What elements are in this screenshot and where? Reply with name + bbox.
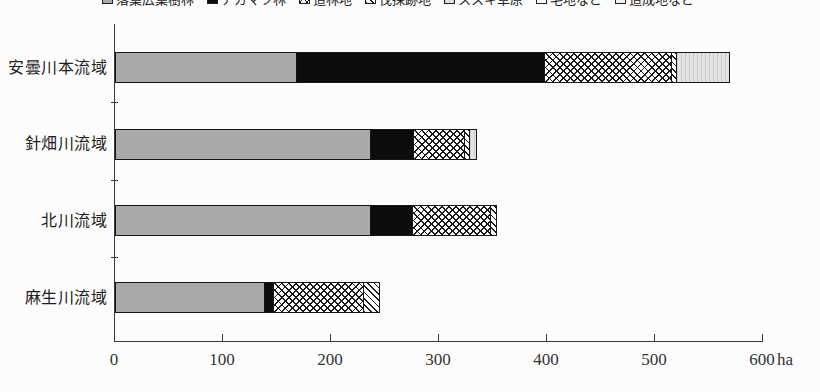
- bar-segment-gray: [116, 130, 371, 159]
- x-axis-line: [114, 341, 763, 342]
- plot-area: [115, 0, 763, 341]
- bar-segment-diagonal: [364, 283, 379, 312]
- x-tick-label-300: 300: [414, 350, 462, 370]
- bar-麻生川流域: [115, 282, 380, 313]
- category-label-3: 麻生川流域: [0, 287, 107, 309]
- category-label-2: 北川流域: [0, 210, 107, 232]
- chart-canvas: 落葉広葉樹林アカマツ林造林地伐採跡地ススキ草原宅地など造成地など 安曇川本流域針…: [0, 0, 820, 392]
- bar-segment-gray: [116, 53, 297, 82]
- x-axis-unit-label: ha: [777, 350, 811, 370]
- bar-segment-crosshatch: [274, 283, 365, 312]
- x-tick-label-400: 400: [522, 350, 570, 370]
- category-label-0: 安曇川本流域: [0, 57, 107, 79]
- bar-segment-black: [297, 53, 544, 82]
- bar-segment-gray: [116, 206, 371, 235]
- x-tick-label-0: 0: [90, 350, 138, 370]
- bar-安曇川本流域: [115, 52, 730, 83]
- x-tick-label-100: 100: [198, 350, 246, 370]
- bar-segment-gray: [116, 283, 265, 312]
- bar-segment-black: [371, 206, 413, 235]
- bar-segment-black: [265, 283, 274, 312]
- x-tick-label-200: 200: [306, 350, 354, 370]
- bar-segment-crosshatch: [545, 53, 672, 82]
- bar-北川流域: [115, 205, 497, 236]
- bar-segment-crosshatch: [414, 130, 465, 159]
- bar-segment-diagonal: [491, 206, 496, 235]
- legend-swatch-gray: [102, 0, 113, 4]
- bar-segment-crosshatch: [413, 206, 491, 235]
- bar-segment-lightgray: [677, 53, 729, 82]
- bar-segment-lightgray: [470, 130, 475, 159]
- bar-segment-black: [371, 130, 414, 159]
- x-tick-label-500: 500: [630, 350, 678, 370]
- category-label-1: 針畑川流域: [0, 133, 107, 155]
- bar-針畑川流域: [115, 129, 477, 160]
